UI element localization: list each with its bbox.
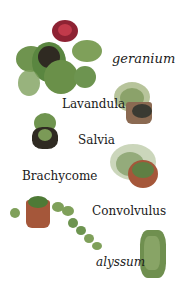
brachycome-plant-image <box>110 140 164 192</box>
geranium-plant-image <box>14 18 110 100</box>
convolvulus-plant-image <box>10 190 104 256</box>
convolvulus-label: Convolvulus <box>92 205 166 217</box>
lavandula-label: Lavandula <box>62 98 125 110</box>
geranium-label: geranium <box>112 52 175 65</box>
alyssum-label: alyssum <box>96 256 145 268</box>
brachycome-label: Brachycome <box>22 170 97 182</box>
alyssum-plant-image <box>140 230 166 278</box>
salvia-plant-image <box>30 113 60 149</box>
